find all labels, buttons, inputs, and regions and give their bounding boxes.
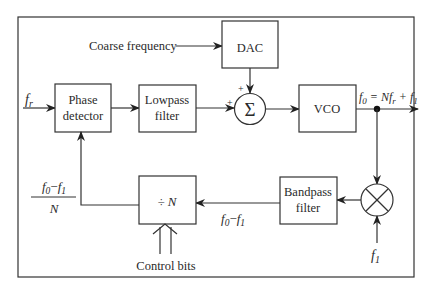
control-bits-label: Control bits	[136, 259, 196, 273]
dac-block: DAC	[222, 21, 278, 68]
summer-node: Σ + +	[227, 83, 266, 125]
plus-sign-left: +	[227, 97, 233, 108]
vco-block: VCO	[299, 85, 356, 132]
mixer-node	[361, 184, 393, 216]
control-bits-input: Control bits	[136, 224, 196, 273]
bandpass-label-1: Bandpass	[284, 185, 332, 199]
svg-text:f0−f1: f0−f1	[42, 179, 66, 196]
vco-label: VCO	[314, 102, 340, 116]
feedback-arrow	[81, 132, 139, 205]
divider-label: ÷ N	[157, 194, 177, 209]
reference-input: fr	[23, 92, 55, 109]
fraction-label: f0−f1 N	[31, 179, 76, 216]
plus-sign-top: +	[238, 83, 244, 94]
phase-detector-label-1: Phase	[68, 93, 98, 107]
output-equation: f0 = Nfr + f1	[359, 90, 418, 106]
coarse-frequency-label: Coarse frequency	[89, 39, 178, 53]
bandpass-label-2: filter	[296, 201, 321, 215]
dac-label: DAC	[237, 41, 263, 55]
f1-label: f1	[371, 248, 380, 265]
divider-block: ÷ N	[139, 176, 196, 224]
lowpass-label-1: Lowpass	[145, 93, 190, 107]
phase-detector-label-2: detector	[63, 109, 104, 123]
phase-detector-block: Phase detector	[55, 84, 111, 132]
double-arrow-icon	[153, 224, 177, 234]
lowpass-label-2: filter	[155, 109, 180, 123]
sigma-icon: Σ	[244, 99, 255, 120]
diagram-frame	[18, 17, 414, 277]
lowpass-filter-block: Lowpass filter	[139, 85, 196, 132]
fr-label: fr	[25, 92, 33, 109]
svg-text:N: N	[49, 201, 60, 216]
pll-block-diagram: fr Phase detector Lowpass filter Coarse …	[0, 0, 442, 291]
difference-label: f0−f1	[221, 211, 245, 228]
bandpass-filter-block: Bandpass filter	[280, 177, 337, 224]
